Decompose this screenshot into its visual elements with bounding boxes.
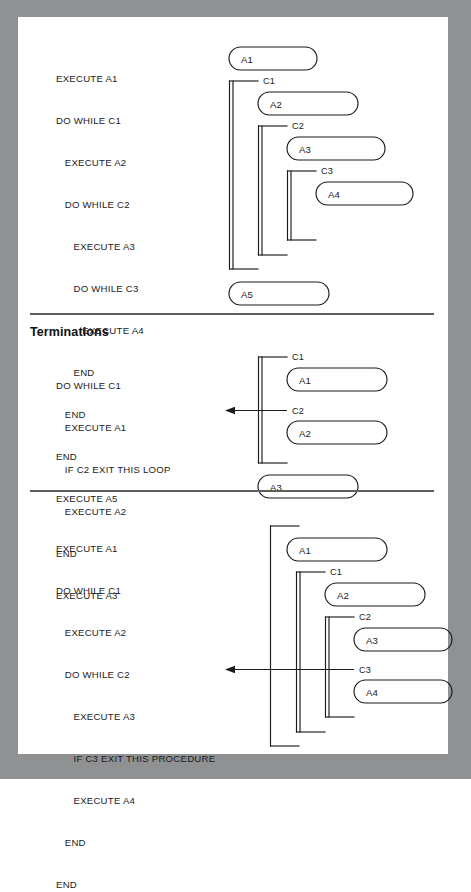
diagram-condition-label: C2	[292, 406, 304, 416]
code-line: EXECUTE A1	[56, 72, 144, 86]
diagram-condition-label: C1	[292, 352, 304, 362]
diagram-node-a2: A2	[325, 583, 425, 606]
code-block-procedure-exit: EXECUTE A1 DO WHILE C1 EXECUTE A2 DO WHI…	[56, 514, 215, 892]
panel-terminations: Terminations DO WHILE C1 EXECUTE A1 IF C…	[18, 315, 448, 490]
diagram-bracket-procedure	[271, 526, 300, 746]
diagram-node-label: A1	[241, 54, 253, 65]
diagram-node-label: A2	[299, 428, 311, 439]
code-line: EXECUTE A3	[56, 240, 144, 254]
diagram-exit-arrow-c3: C3	[225, 665, 371, 675]
diagram-condition-label: C2	[359, 612, 371, 622]
diagram-node-a2: A2	[287, 421, 387, 444]
diagram-node-label: A4	[366, 687, 379, 698]
diagram-node-label: A1	[299, 545, 311, 556]
diagram-node-a2: A2	[258, 92, 358, 115]
code-line: EXECUTE A2	[56, 626, 215, 640]
diagram-node-a3: A3	[354, 628, 452, 651]
section-heading-terminations: Terminations	[30, 325, 109, 339]
code-line: IF C2 EXIT THIS LOOP	[56, 463, 171, 477]
code-line: DO WHILE C1	[56, 584, 215, 598]
diagram-condition-label: C3	[321, 166, 333, 176]
diagram-condition-label: C1	[330, 567, 342, 577]
diagram-node-label: A4	[328, 189, 341, 200]
diagram-node-label: A1	[299, 375, 311, 386]
diagram-node-label: A2	[337, 590, 349, 601]
code-line: EXECUTE A2	[56, 156, 144, 170]
diagram-node-a5: A5	[229, 282, 329, 305]
code-line: IF C3 EXIT THIS PROCEDURE	[56, 752, 215, 766]
diagram-exit-arrow-c2: C2	[225, 406, 304, 416]
panel-procedure-exit: EXECUTE A1 DO WHILE C1 EXECUTE A2 DO WHI…	[18, 490, 448, 754]
code-line: EXECUTE A4	[56, 794, 215, 808]
diagram-condition-label: C1	[263, 76, 275, 86]
code-line: EXECUTE A1	[56, 421, 171, 435]
code-line: EXECUTE A1	[56, 542, 215, 556]
page-sheet: EXECUTE A1 DO WHILE C1 EXECUTE A2 DO WHI…	[18, 17, 448, 754]
diagram-bracket-c2: C2	[259, 121, 305, 255]
diagram-condition-label: C2	[292, 121, 304, 131]
code-line: END	[56, 878, 215, 892]
diagram-node-a1: A1	[287, 538, 387, 561]
diagram-node-a1: A1	[229, 47, 317, 70]
diagram-nesting: A1 C1 A2	[223, 37, 448, 317]
panel-nesting: EXECUTE A1 DO WHILE C1 EXECUTE A2 DO WHI…	[18, 17, 448, 315]
diagram-bracket-c1: C1	[230, 76, 276, 269]
diagram-node-a4: A4	[354, 680, 452, 703]
diagram-node-label: A3	[299, 144, 311, 155]
diagram-node-label: A2	[270, 99, 282, 110]
diagram-node-a3: A3	[287, 137, 385, 160]
diagram-node-label: A5	[241, 289, 253, 300]
code-line: DO WHILE C1	[56, 379, 171, 393]
diagram-terminations: C1 A1 C2 A	[223, 345, 448, 495]
code-line: DO WHILE C1	[56, 114, 144, 128]
code-line: DO WHILE C3	[56, 282, 144, 296]
diagram-node-a4: A4	[316, 182, 413, 205]
code-line: DO WHILE C2	[56, 198, 144, 212]
diagram-bracket-c1: C1	[297, 567, 343, 732]
code-line: END	[56, 836, 215, 850]
code-line: EXECUTE A3	[56, 710, 215, 724]
diagram-node-label: A3	[366, 635, 378, 646]
diagram-node-a1: A1	[287, 368, 387, 391]
code-line: DO WHILE C2	[56, 668, 215, 682]
diagram-bracket-c3: C3	[288, 166, 334, 240]
diagram-procedure-exit: A1 C1 A2	[223, 514, 448, 764]
diagram-condition-label: C3	[359, 665, 371, 675]
